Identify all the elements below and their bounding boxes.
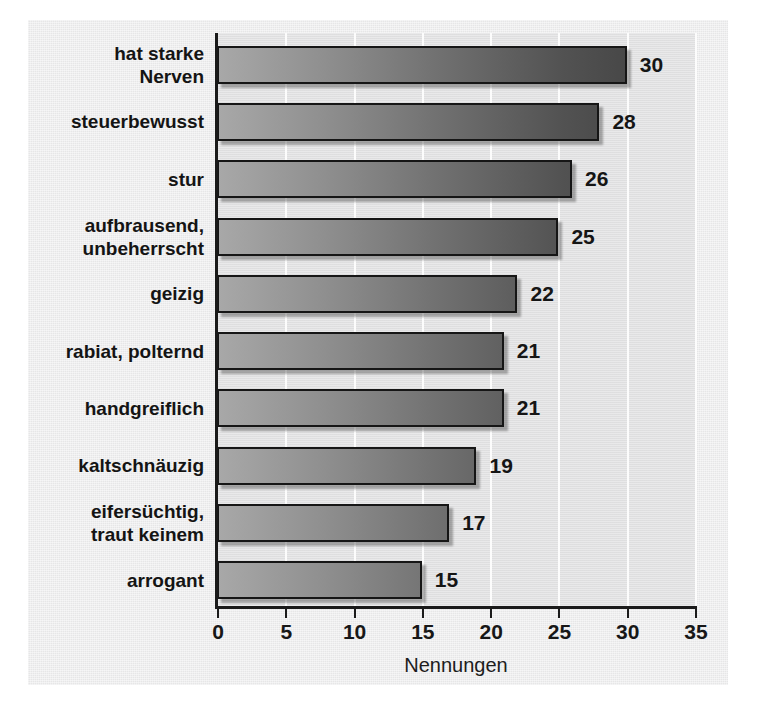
bar-fill xyxy=(219,48,625,82)
category-label: geizig xyxy=(28,282,204,305)
bar-value-label: 15 xyxy=(435,568,458,592)
bar-row: 19 xyxy=(217,447,695,485)
x-tick-mark-0 xyxy=(217,609,219,618)
bar[interactable] xyxy=(217,275,517,313)
bar-row: 25 xyxy=(217,218,695,256)
y-axis-line xyxy=(215,33,218,608)
bar-fill xyxy=(219,162,570,196)
bar[interactable] xyxy=(217,332,504,370)
bar-row: 28 xyxy=(217,103,695,141)
bar-value-label: 28 xyxy=(612,110,635,134)
category-label: hat starke Nerven xyxy=(28,42,204,88)
x-tick-label-35: 35 xyxy=(666,620,726,644)
chart-figure: 30282625222121191715 05101520253035 hat … xyxy=(28,20,728,685)
x-tick-mark-15 xyxy=(422,609,424,618)
bar-row: 21 xyxy=(217,389,695,427)
x-tick-label-0: 0 xyxy=(188,620,248,644)
plot-area: 30282625222121191715 xyxy=(217,33,695,606)
bar-row: 22 xyxy=(217,275,695,313)
category-label: steuerbewusst xyxy=(28,110,204,133)
x-tick-label-5: 5 xyxy=(256,620,316,644)
bar-value-label: 22 xyxy=(530,282,553,306)
x-tick-mark-5 xyxy=(285,609,287,618)
bar-value-label: 25 xyxy=(571,225,594,249)
x-axis-line xyxy=(215,606,697,609)
bar[interactable] xyxy=(217,103,599,141)
bar-fill xyxy=(219,506,447,540)
category-label: kaltschnäuzig xyxy=(28,454,204,477)
x-tick-mark-20 xyxy=(490,609,492,618)
x-tick-mark-35 xyxy=(695,609,697,618)
bar-value-label: 17 xyxy=(462,511,485,535)
x-axis-title: Nennungen xyxy=(217,654,695,677)
bar-value-label: 21 xyxy=(517,396,540,420)
x-tick-label-20: 20 xyxy=(461,620,521,644)
x-tick-label-25: 25 xyxy=(529,620,589,644)
bar[interactable] xyxy=(217,218,558,256)
bar-row: 26 xyxy=(217,160,695,198)
bar-fill xyxy=(219,563,420,597)
x-tick-mark-25 xyxy=(558,609,560,618)
category-label: rabiat, polternd xyxy=(28,340,204,363)
bar-fill xyxy=(219,391,502,425)
gridline-35 xyxy=(695,33,697,606)
category-label: eifersüchtig, traut keinem xyxy=(28,500,204,546)
bar[interactable] xyxy=(217,46,627,84)
bar-value-label: 30 xyxy=(640,53,663,77)
category-label: stur xyxy=(28,168,204,191)
bar[interactable] xyxy=(217,160,572,198)
bar-fill xyxy=(219,277,515,311)
bar-value-label: 26 xyxy=(585,167,608,191)
bar-row: 21 xyxy=(217,332,695,370)
x-tick-label-10: 10 xyxy=(325,620,385,644)
bar-fill xyxy=(219,220,556,254)
category-label: aufbrausend, unbeherrscht xyxy=(28,214,204,260)
bar[interactable] xyxy=(217,504,449,542)
bar-fill xyxy=(219,105,597,139)
bar-row: 15 xyxy=(217,561,695,599)
bar-value-label: 21 xyxy=(517,339,540,363)
bar-row: 30 xyxy=(217,46,695,84)
bar[interactable] xyxy=(217,447,476,485)
category-label: arrogant xyxy=(28,569,204,592)
category-label: handgreiflich xyxy=(28,397,204,420)
bar-row: 17 xyxy=(217,504,695,542)
x-tick-mark-30 xyxy=(627,609,629,618)
bar[interactable] xyxy=(217,561,422,599)
bar-value-label: 19 xyxy=(489,454,512,478)
x-tick-mark-10 xyxy=(354,609,356,618)
x-tick-label-30: 30 xyxy=(598,620,658,644)
bar[interactable] xyxy=(217,389,504,427)
x-tick-label-15: 15 xyxy=(393,620,453,644)
bar-fill xyxy=(219,334,502,368)
bar-fill xyxy=(219,449,474,483)
